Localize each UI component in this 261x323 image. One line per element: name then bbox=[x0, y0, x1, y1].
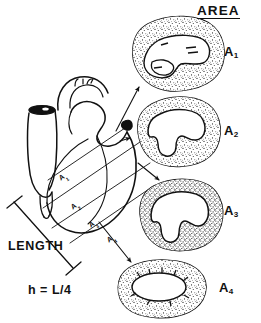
label-a1-subscript: 1 bbox=[234, 51, 239, 60]
label-a1-letter: A bbox=[224, 44, 234, 59]
page-title: AREA bbox=[197, 4, 240, 19]
label-a2-letter: A bbox=[224, 123, 234, 138]
slice-thickness-formula: h = L/4 bbox=[28, 283, 71, 297]
cross-section-a3 bbox=[134, 172, 230, 256]
label-cross-section-a4: A4 bbox=[219, 280, 233, 295]
label-a2-subscript: 2 bbox=[234, 130, 239, 139]
label-cross-section-a3: A3 bbox=[224, 203, 238, 218]
cross-section-a4 bbox=[110, 252, 214, 323]
heart-section-diagram bbox=[0, 0, 261, 323]
length-cap-bottom bbox=[66, 262, 81, 275]
length-label: LENGTH bbox=[8, 239, 64, 253]
label-a4-letter: A bbox=[219, 280, 229, 295]
length-axis bbox=[14, 202, 73, 268]
cross-section-a2 bbox=[132, 90, 228, 174]
label-cross-section-a1: A1 bbox=[224, 44, 238, 59]
label-cross-section-a2: A2 bbox=[224, 123, 238, 138]
label-a3-letter: A bbox=[224, 203, 234, 218]
label-a3-subscript: 3 bbox=[234, 210, 239, 219]
cross-section-a1 bbox=[128, 10, 232, 100]
label-a4-subscript: 4 bbox=[229, 287, 234, 296]
length-cap-top bbox=[7, 196, 22, 208]
